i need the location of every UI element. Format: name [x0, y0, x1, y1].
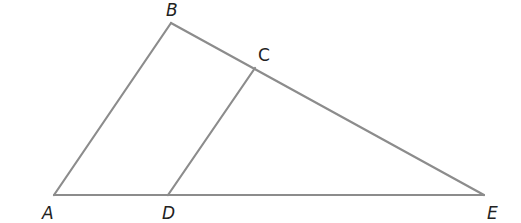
label-d: D: [162, 203, 175, 223]
segment-ab: [54, 23, 171, 195]
segment-be: [171, 23, 484, 195]
label-b: B: [166, 0, 178, 20]
geometry-diagram: B C A D E: [0, 0, 521, 223]
segment-cd: [168, 68, 255, 195]
diagram-svg: B C A D E: [0, 0, 521, 223]
label-a: A: [41, 203, 54, 223]
label-e: E: [487, 203, 498, 223]
label-c: C: [258, 45, 270, 65]
